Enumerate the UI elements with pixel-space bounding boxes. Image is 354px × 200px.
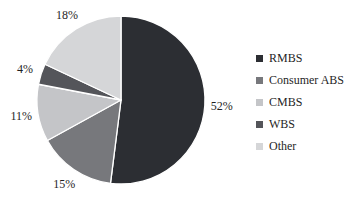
legend-swatch-icon: [256, 143, 263, 150]
legend-item-other: Other: [256, 139, 344, 153]
pie-slice-rmbs: [110, 16, 205, 184]
legend-swatch-icon: [256, 55, 263, 62]
legend-swatch-icon: [256, 99, 263, 106]
legend-label: RMBS: [269, 51, 302, 65]
legend-item-rmbs: RMBS: [256, 51, 344, 65]
legend-item-consumer-abs: Consumer ABS: [256, 73, 344, 87]
legend-label: CMBS: [269, 95, 302, 109]
chart-legend: RMBSConsumer ABSCMBSWBSOther: [256, 51, 344, 153]
legend-swatch-icon: [256, 121, 263, 128]
legend-item-cmbs: CMBS: [256, 95, 344, 109]
legend-label: Other: [269, 139, 296, 153]
legend-label: Consumer ABS: [269, 73, 344, 87]
legend-label: WBS: [269, 117, 295, 131]
legend-item-wbs: WBS: [256, 117, 344, 131]
pie-chart-figure: 52%15%11%4%18% RMBSConsumer ABSCMBSWBSOt…: [0, 0, 354, 200]
legend-swatch-icon: [256, 77, 263, 84]
